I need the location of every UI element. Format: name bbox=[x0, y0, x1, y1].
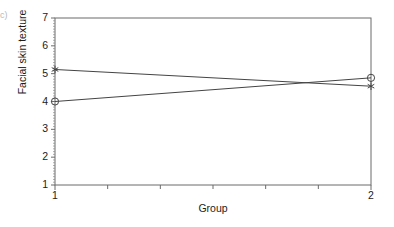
series-line-star-series bbox=[55, 69, 371, 86]
plot-area bbox=[0, 0, 394, 227]
plot-frame bbox=[55, 18, 371, 185]
series-line-circle-series bbox=[55, 78, 371, 102]
figure-panel: c) Facial skin texture Group 1234567 12 bbox=[0, 0, 394, 227]
